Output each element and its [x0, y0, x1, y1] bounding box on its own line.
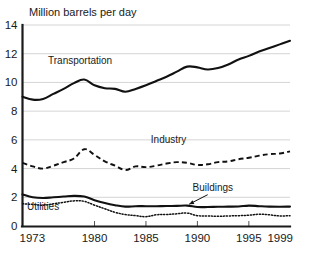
y-tick-label-8: 8	[11, 105, 17, 117]
series-label-industry: Industry	[151, 134, 187, 145]
y-tick-label-12: 12	[5, 48, 18, 60]
y-tick-label-0: 0	[11, 220, 17, 232]
y-tick-label-14: 14	[5, 19, 18, 31]
series-label-buildings: Buildings	[193, 182, 234, 193]
y-tick-label-6: 6	[11, 134, 17, 146]
line-chart: 02468101214 197319801985199019951999 Mil…	[0, 0, 314, 256]
y-tick-label-10: 10	[5, 76, 18, 88]
x-tick-label-1973: 1973	[20, 232, 46, 244]
chart-container: 02468101214 197319801985199019951999 Mil…	[0, 0, 314, 256]
series-label-transportation: Transportation	[48, 55, 112, 66]
x-tick-label-1999: 1999	[267, 232, 293, 244]
series-label-utilities: Utilities	[27, 201, 59, 212]
chart-background	[0, 0, 314, 256]
x-tick-label-1985: 1985	[133, 232, 159, 244]
y-tick-label-4: 4	[11, 163, 18, 175]
x-tick-label-1990: 1990	[185, 232, 211, 244]
x-tick-label-1995: 1995	[236, 232, 262, 244]
x-tick-label-1980: 1980	[82, 232, 108, 244]
y-tick-label-2: 2	[11, 191, 17, 203]
chart-title: Million barrels per day	[29, 6, 137, 18]
